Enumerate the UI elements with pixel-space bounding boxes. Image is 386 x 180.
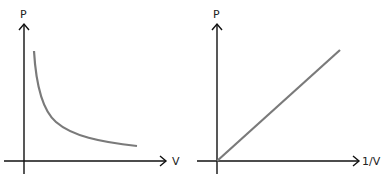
- right-x-label: 1/V: [362, 155, 381, 168]
- right-y-label: P: [213, 8, 220, 21]
- right-plot: P 1/V: [197, 8, 381, 174]
- pv-hyperbola-curve: [34, 51, 137, 146]
- p-inverse-v-line: [217, 50, 340, 161]
- left-plot: P V: [4, 8, 180, 174]
- left-x-label: V: [172, 155, 180, 168]
- left-y-label: P: [20, 8, 27, 21]
- chart-figure: P V P 1/V: [0, 0, 386, 180]
